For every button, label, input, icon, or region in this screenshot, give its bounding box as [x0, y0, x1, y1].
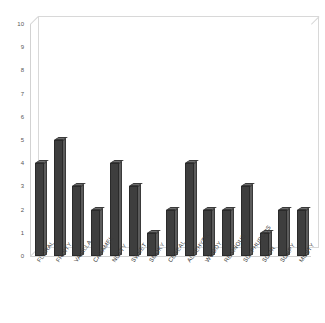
bar-fruity: [54, 140, 63, 256]
y-axis-tick-label: 3: [8, 183, 24, 189]
bar-sulphurous: [241, 186, 250, 256]
y-axis-tick-label: 2: [8, 207, 24, 213]
bar-side-face: [119, 161, 122, 256]
y-axis-tick-label: 0: [8, 253, 24, 259]
y-axis-tick-label: 1: [8, 230, 24, 236]
bar-chart: 109876543210 FLORALFRUITYVANILLACARAMELN…: [0, 0, 325, 323]
bars-layer: [30, 24, 311, 256]
bar-side-face: [44, 161, 47, 256]
y-axis-tick-label: 6: [8, 114, 24, 120]
bar-front-face: [72, 186, 81, 256]
bar-sweet: [129, 186, 138, 256]
y-axis-tick-label: 9: [8, 44, 24, 50]
y-axis-tick-label: 7: [8, 91, 24, 97]
bar-floral: [35, 163, 44, 256]
bar-side-face: [194, 161, 197, 256]
y-axis-tick-label: 8: [8, 67, 24, 73]
bar-front-face: [35, 163, 44, 256]
bar-front-face: [129, 186, 138, 256]
y-axis-tick-label: 5: [8, 137, 24, 143]
bar-vanilla: [72, 186, 81, 256]
bar-side-face: [63, 138, 66, 256]
y-axis-tick-label: 4: [8, 160, 24, 166]
y-axis: 109876543210: [4, 0, 24, 323]
bar-front-face: [241, 186, 250, 256]
bar-front-face: [54, 140, 63, 256]
y-axis-tick-label: 10: [8, 21, 24, 27]
